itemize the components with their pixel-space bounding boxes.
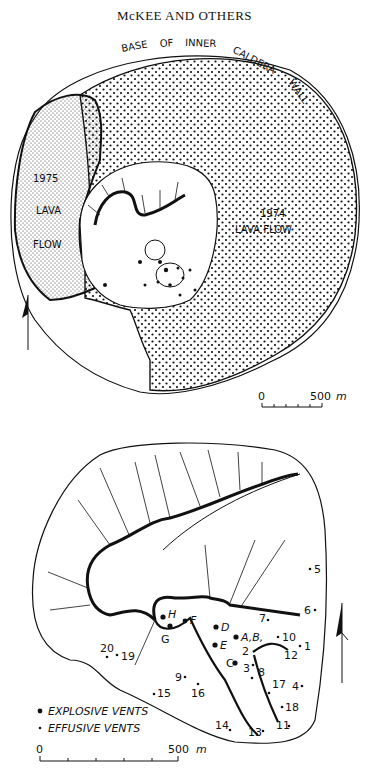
vent-label-8: 8: [258, 666, 265, 679]
vent-label-11: 11: [276, 719, 290, 732]
figure: BASE OF INNER CALDERA WALL 1975 LAVA FLO…: [0, 0, 369, 776]
vent-label-10: 10: [282, 631, 296, 644]
vent-label-13: 13: [248, 726, 262, 739]
north-arrow-icon: [336, 603, 348, 683]
vent-label-20: 20: [100, 642, 114, 655]
legend-explosive: EXPLOSIVE VENTS: [48, 705, 148, 718]
vent-label-18: 18: [285, 701, 299, 714]
vent-label-c: C: [226, 657, 234, 670]
north-arrow-icon: [22, 295, 28, 350]
flow-1975-year: 1975: [33, 173, 58, 184]
crater-outline: [32, 443, 326, 743]
caldera-label-inner: INNER: [185, 37, 217, 49]
flow-1974-year: 1974: [260, 208, 285, 219]
vent-label-2: 2: [242, 645, 249, 658]
vent-label-d: D: [221, 621, 229, 634]
vent-label-7: 7: [259, 612, 266, 625]
scale-bottom-start: 0: [36, 743, 43, 756]
scale-bar-bottom: 0 500 m: [36, 743, 207, 761]
scale-top-start: 0: [258, 390, 265, 403]
vent-label-h: H: [168, 608, 176, 621]
caldera-label-base: BASE: [120, 39, 148, 54]
flow-1975-line2: FLOW: [33, 239, 62, 250]
scale-top-unit: m: [336, 390, 347, 403]
top-map: BASE OF INNER CALDERA WALL 1975 LAVA FLO…: [11, 37, 359, 407]
scale-bottom-unit: m: [196, 743, 207, 756]
legend: EXPLOSIVE VENTS EFFUSIVE VENTS: [38, 705, 149, 735]
vent-label-17: 17: [272, 678, 286, 691]
vent-label-12: 12: [284, 649, 298, 662]
vent-label-15: 15: [157, 687, 171, 700]
vent-label-1: 1: [304, 640, 311, 653]
scale-top-end: 500: [310, 390, 331, 403]
vent-label-19: 19: [121, 650, 135, 663]
scale-bar-top: 0 500 m: [258, 390, 347, 407]
vent-label-5: 5: [314, 563, 321, 576]
explosive-vent-icon: [38, 709, 43, 714]
vent-label-e: E: [220, 639, 227, 652]
vent-label-16: 16: [191, 687, 205, 700]
inner-crater: [80, 162, 217, 309]
vent-label-14: 14: [215, 719, 229, 732]
scale-bottom-end: 500: [168, 743, 189, 756]
flow-1974-line1: LAVA FLOW: [235, 224, 292, 235]
vent-label-f: F: [190, 614, 197, 627]
bottom-map: H F G D E A,B, C 2 1 3 4 5 6 7 8 9 10 11…: [32, 443, 348, 761]
effusive-vent-icon: [39, 727, 42, 730]
legend-effusive: EFFUSIVE VENTS: [48, 722, 140, 735]
vent-label-9: 9: [175, 671, 182, 684]
flow-1975-line1: LAVA: [36, 205, 61, 216]
vent-label-4: 4: [292, 680, 299, 693]
vent-label-3: 3: [243, 662, 250, 675]
caldera-label-of: OF: [159, 37, 174, 49]
vent-label-6: 6: [304, 604, 311, 617]
vent-label-g: G: [161, 633, 170, 646]
vent-label-ab: A,B,: [240, 631, 263, 644]
